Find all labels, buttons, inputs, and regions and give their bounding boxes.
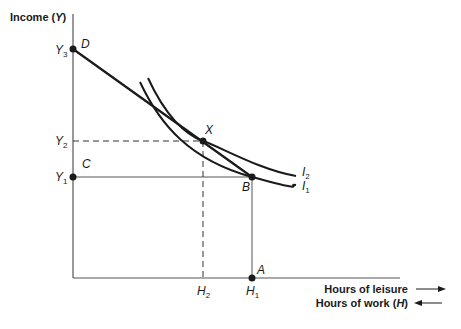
arrow-right-icon: [438, 286, 446, 292]
label-d: D: [81, 37, 90, 51]
arrow-left-icon: [414, 300, 422, 306]
tick-y3: Y3: [55, 43, 68, 59]
tick-y1: Y1: [55, 170, 68, 186]
label-a: A: [256, 263, 265, 277]
y-axis-title: Income (Y): [10, 11, 67, 23]
point-d: [70, 46, 77, 53]
legend-hours-work: Hours of work (H): [316, 297, 409, 309]
budget-line: [73, 49, 252, 177]
point-x: [200, 138, 207, 145]
label-i1: I1: [302, 179, 310, 195]
point-c: [70, 174, 77, 181]
point-a: [249, 275, 256, 282]
tick-y2: Y2: [55, 134, 68, 150]
tick-h2: H2: [197, 284, 211, 300]
indifference-curve-i2: [148, 78, 296, 176]
label-c: C: [82, 157, 91, 171]
tick-h1: H1: [246, 284, 260, 300]
labour-supply-diagram: Income (Y) D C X B A Y3 Y2 Y1 H2 H1 I2 I…: [0, 0, 461, 329]
legend-hours-leisure: Hours of leisure: [324, 283, 408, 295]
label-b: B: [242, 180, 250, 194]
label-x: X: [204, 123, 214, 137]
